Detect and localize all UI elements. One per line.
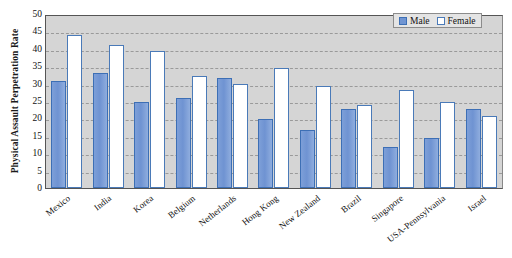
x-label-slot: Israel — [461, 189, 503, 257]
bar-male — [134, 102, 149, 188]
x-label-slot: India — [87, 189, 129, 257]
bar-group — [461, 16, 502, 188]
y-tick-label: 30 — [22, 80, 42, 90]
y-tick-label: 20 — [22, 115, 42, 125]
chart-legend: Male Female — [393, 13, 482, 28]
bar-male — [383, 147, 398, 188]
bar-male — [217, 78, 232, 188]
y-tick-label: 15 — [22, 132, 42, 142]
y-tick-label: 0 — [22, 184, 42, 194]
bar-male — [258, 119, 273, 188]
y-tick-label: 40 — [22, 45, 42, 55]
bar-male — [300, 130, 315, 188]
y-tick-label: 45 — [22, 28, 42, 38]
bar-male — [466, 109, 481, 188]
bar-female — [316, 86, 331, 188]
bar-male — [176, 98, 191, 188]
legend-swatch-female-icon — [437, 17, 445, 25]
bar-male — [93, 73, 108, 188]
bar-group — [253, 16, 294, 188]
bar-female — [192, 76, 207, 188]
bar-female — [150, 51, 165, 188]
bar-group — [46, 16, 87, 188]
legend-entry-female: Female — [437, 16, 476, 26]
bar-female — [233, 84, 248, 188]
bar-male — [51, 81, 66, 188]
plot-area — [45, 15, 503, 189]
bar-female — [357, 105, 372, 188]
legend-entry-male: Male — [399, 16, 430, 26]
y-tick-label: 10 — [22, 149, 42, 159]
y-tick-label: 5 — [22, 167, 42, 177]
bar-female — [109, 45, 124, 188]
x-axis-label: Belgium — [166, 193, 197, 220]
legend-label-male: Male — [410, 16, 430, 26]
x-label-slot: USA-Pennsylvania — [420, 189, 462, 257]
bar-chart: Physical Assault Perpetration Rate 05101… — [0, 0, 512, 258]
y-tick-label: 50 — [22, 10, 42, 20]
bar-male — [341, 109, 356, 188]
bar-female — [440, 102, 455, 188]
bar-female — [482, 116, 497, 188]
bar-group — [419, 16, 460, 188]
bar-group — [170, 16, 211, 188]
bars-layer — [46, 16, 502, 188]
bar-group — [129, 16, 170, 188]
bar-female — [399, 90, 414, 188]
bar-group — [87, 16, 128, 188]
x-label-slot: Brazil — [336, 189, 378, 257]
x-axis-label: Mexico — [44, 193, 72, 218]
y-tick-label: 35 — [22, 62, 42, 72]
bar-female — [67, 35, 82, 188]
x-axis-category-labels: MexicoIndiaKoreaBelgiumNetherlandsHong K… — [45, 189, 503, 257]
legend-label-female: Female — [448, 16, 476, 26]
x-label-slot: New Zealand — [295, 189, 337, 257]
x-label-slot: Mexico — [45, 189, 87, 257]
x-axis-label: Brazil — [339, 193, 363, 215]
bar-group — [378, 16, 419, 188]
x-axis-label: Korea — [131, 193, 155, 215]
bar-male — [424, 138, 439, 188]
y-tick-label: 25 — [22, 97, 42, 107]
bar-group — [212, 16, 253, 188]
bar-female — [274, 68, 289, 188]
legend-swatch-male-icon — [399, 17, 407, 25]
bar-group — [295, 16, 336, 188]
x-axis-label: India — [92, 193, 113, 213]
y-axis-tick-labels: 05101520253035404550 — [22, 14, 42, 190]
x-label-slot: Korea — [128, 189, 170, 257]
x-axis-label: Israel — [466, 193, 488, 214]
bar-group — [336, 16, 377, 188]
